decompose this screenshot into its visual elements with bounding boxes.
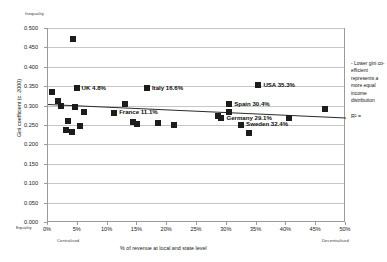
x-tick-mark	[315, 222, 316, 225]
data-point	[77, 123, 83, 129]
data-point	[81, 109, 87, 115]
y-tick-label: 0.050	[6, 200, 38, 206]
x-tick-mark	[196, 222, 197, 225]
data-point-label: France 11.1%	[119, 108, 158, 115]
data-point-label: USA 35.3%	[263, 81, 295, 88]
data-point-label: Sweden 32.4%	[246, 120, 288, 127]
x-tick-mark	[345, 222, 346, 225]
y-tick-label: 0.500	[6, 25, 38, 31]
r-squared-label: R² =	[351, 113, 361, 119]
data-point	[286, 115, 292, 121]
y-tick-label: 0.200	[6, 141, 38, 147]
data-point	[255, 82, 261, 88]
data-point	[226, 101, 232, 107]
y-tick-label: 0.150	[6, 161, 38, 167]
y-tick-label: 0.000	[6, 219, 38, 225]
data-point	[49, 89, 55, 95]
data-point	[134, 121, 140, 127]
y-tick-label: 0.350	[6, 83, 38, 89]
x-tick-label: 50%	[330, 226, 360, 232]
data-point	[122, 101, 128, 107]
x-tick-label: 5%	[62, 226, 92, 232]
data-point	[65, 118, 71, 124]
data-point	[171, 122, 177, 128]
x-tick-label: 40%	[270, 226, 300, 232]
trendline	[48, 28, 346, 222]
data-point	[74, 85, 80, 91]
x-tick-label: 25%	[181, 226, 211, 232]
y-tick-label: 0.300	[6, 103, 38, 109]
data-point	[238, 122, 244, 128]
data-point-label: Italy 16.6%	[152, 84, 183, 91]
data-point	[72, 104, 78, 110]
scatter-chart: Inequality Equality Centralised Decentra…	[0, 0, 387, 262]
x-tick-label: 20%	[151, 226, 181, 232]
y-tick-label: 0.450	[6, 44, 38, 50]
data-point	[111, 110, 117, 116]
x-tick-label: 15%	[121, 226, 151, 232]
x-axis-left-label: Centralised	[57, 238, 79, 243]
data-point-label: Spain 30.4%	[234, 100, 270, 107]
y-axis-bottom-label: Equality	[16, 225, 32, 230]
x-tick-mark	[256, 222, 257, 225]
chart-annotation-note: - Lower gini co-efficient represents a m…	[351, 60, 385, 104]
x-axis-title: % of revenue at local and state level	[120, 245, 207, 251]
x-tick-mark	[226, 222, 227, 225]
x-tick-label: 0%	[32, 226, 62, 232]
x-tick-label: 45%	[300, 226, 330, 232]
data-point	[144, 85, 150, 91]
y-axis-top-label: Inequality	[25, 11, 44, 16]
plot-area: UK 4.8%France 11.1%Italy 16.6%USA 35.3%S…	[47, 28, 345, 222]
y-tick-label: 0.100	[6, 180, 38, 186]
x-tick-label: 30%	[211, 226, 241, 232]
y-tick-label: 0.250	[6, 122, 38, 128]
x-tick-mark	[47, 222, 48, 225]
x-tick-mark	[285, 222, 286, 225]
x-tick-mark	[166, 222, 167, 225]
x-tick-mark	[136, 222, 137, 225]
x-tick-label: 10%	[92, 226, 122, 232]
data-point	[58, 103, 64, 109]
x-axis-right-label: Decentralised	[322, 238, 349, 243]
data-point	[322, 106, 328, 112]
data-point	[155, 120, 161, 126]
data-point	[69, 129, 75, 135]
data-point	[70, 36, 76, 42]
x-tick-label: 35%	[241, 226, 271, 232]
y-tick-label: 0.400	[6, 64, 38, 70]
data-point	[246, 130, 252, 136]
data-point-label: UK 4.8%	[82, 84, 106, 91]
x-tick-mark	[77, 222, 78, 225]
x-tick-mark	[107, 222, 108, 225]
data-point	[215, 113, 221, 119]
